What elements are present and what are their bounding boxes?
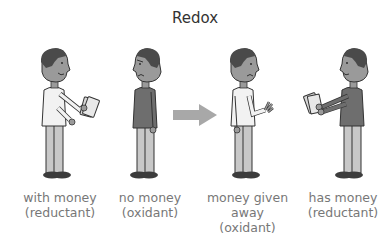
person-money-given-away-figure [225, 48, 290, 183]
caption-line: away [200, 205, 295, 220]
caption-no-money: no money (oxidant) [110, 190, 190, 220]
caption-line: (oxidant) [200, 220, 295, 235]
arrow-right-icon [173, 104, 217, 126]
caption-money-given-away: money given away (oxidant) [200, 190, 295, 235]
caption-line: (reductant) [298, 205, 388, 220]
person-has-money-figure [300, 48, 380, 183]
caption-line: (reductant) [5, 205, 115, 220]
caption-has-money: has money (reductant) [298, 190, 388, 220]
diagram-title: Redox [0, 9, 390, 27]
caption-line: (oxidant) [110, 205, 190, 220]
person-no-money-figure [125, 48, 175, 183]
caption-line: money given [200, 190, 295, 205]
caption-line: with money [5, 190, 115, 205]
person-with-money-figure [30, 48, 110, 183]
caption-with-money: with money (reductant) [5, 190, 115, 220]
caption-line: has money [298, 190, 388, 205]
caption-line: no money [110, 190, 190, 205]
